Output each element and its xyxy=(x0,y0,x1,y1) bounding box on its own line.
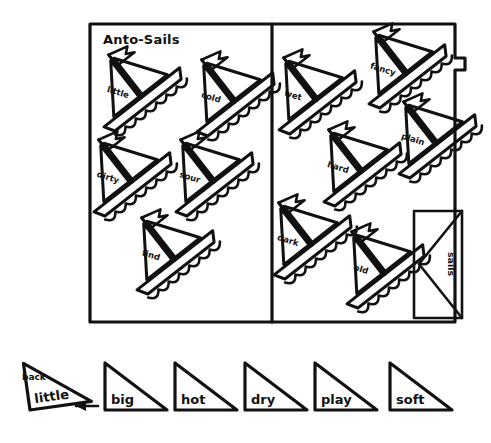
illustration-stage: Anto-Sailssailslittlecolddirtysourfindwe… xyxy=(0,0,491,443)
svg-text:find: find xyxy=(141,248,162,263)
svg-text:fancy: fancy xyxy=(369,60,397,77)
svg-text:back: back xyxy=(22,372,47,382)
page-title: Anto-Sails xyxy=(103,32,180,47)
svg-text:hard: hard xyxy=(326,159,350,175)
sailboat-find[interactable]: find xyxy=(104,188,224,303)
anto-sails-canvas: Anto-Sailssailslittlecolddirtysourfindwe… xyxy=(0,0,491,443)
back-label: back xyxy=(22,372,47,382)
svg-text:little: little xyxy=(106,84,131,100)
svg-text:sails: sails xyxy=(446,252,457,277)
svg-text:hot: hot xyxy=(181,392,205,407)
word-sail-play[interactable]: play xyxy=(315,363,377,410)
svg-text:Anto-Sails: Anto-Sails xyxy=(103,32,180,47)
svg-text:sour: sour xyxy=(178,169,202,185)
svg-text:cold: cold xyxy=(200,89,222,104)
svg-text:dark: dark xyxy=(276,232,300,248)
word-sail-soft[interactable]: soft xyxy=(390,363,452,410)
svg-text:plain: plain xyxy=(400,131,426,147)
word-sail-big[interactable]: big xyxy=(105,363,167,410)
svg-text:soft: soft xyxy=(396,392,425,407)
svg-text:dirty: dirty xyxy=(96,169,121,185)
svg-text:play: play xyxy=(321,392,352,407)
word-sail-little[interactable]: little xyxy=(23,355,91,410)
word-sail-dry[interactable]: dry xyxy=(245,363,307,410)
sailboat-fancy[interactable]: fancy xyxy=(336,2,456,117)
svg-text:big: big xyxy=(111,392,134,407)
sailboat-dark[interactable]: dark xyxy=(241,173,361,288)
svg-text:dry: dry xyxy=(251,392,276,407)
word-sail-hot[interactable]: hot xyxy=(175,363,237,410)
svg-text:little: little xyxy=(33,386,70,406)
svg-text:wet: wet xyxy=(283,88,303,103)
